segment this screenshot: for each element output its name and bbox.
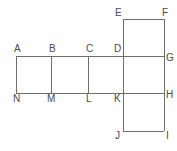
vertex-label-I: I	[166, 131, 169, 141]
vertex-label-H: H	[166, 90, 173, 100]
vertex-label-A: A	[14, 44, 21, 54]
vertex-label-L: L	[86, 94, 92, 104]
vertex-label-N: N	[13, 94, 20, 104]
cube-net-figure: ABCDEFGHIJKLMN	[0, 0, 177, 151]
vertex-label-E: E	[115, 8, 122, 18]
vertex-label-D: D	[114, 44, 121, 54]
vertex-label-F: F	[162, 8, 168, 18]
vertex-label-G: G	[166, 53, 174, 63]
vertex-label-K: K	[114, 94, 121, 104]
vertex-label-B: B	[49, 44, 56, 54]
vertex-label-J: J	[115, 131, 120, 141]
vertex-label-M: M	[47, 94, 55, 104]
net-line-drawing	[0, 0, 177, 151]
vertex-label-C: C	[86, 44, 93, 54]
